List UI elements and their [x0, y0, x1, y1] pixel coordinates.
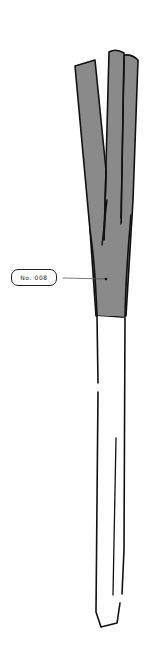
specimen-label: No. 008 [11, 269, 57, 286]
leek-illustration [0, 0, 149, 646]
leader-dot [105, 278, 108, 281]
white-stalk [96, 316, 125, 627]
specimen-label-text: No. 008 [20, 274, 48, 281]
